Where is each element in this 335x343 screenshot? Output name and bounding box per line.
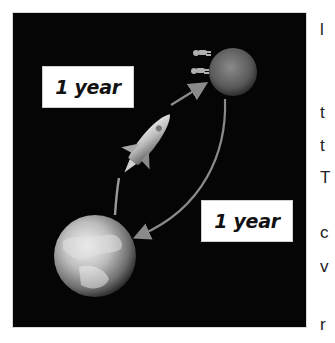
outbound-arrow <box>171 87 200 105</box>
outbound-duration-text: 1 year <box>55 76 121 98</box>
rocket-icon <box>110 103 184 183</box>
clipped-text-line: T <box>320 168 330 188</box>
return-duration-text: 1 year <box>214 210 280 232</box>
rocket-trail <box>115 178 119 215</box>
clipped-text-line: t <box>320 103 325 123</box>
clipped-body-text: l t t T c v r <box>320 0 335 343</box>
mars-icon <box>209 48 257 96</box>
clipped-text-line: v <box>320 257 329 277</box>
clipped-text-line: c <box>320 223 329 243</box>
space-illustration: 1 year 1 year <box>13 13 306 327</box>
clipped-text-line: l <box>320 20 324 40</box>
clipped-text-line: t <box>320 136 325 156</box>
astronauts-icon <box>191 50 211 74</box>
return-duration-label: 1 year <box>201 200 293 242</box>
illustration-graphics <box>13 13 306 327</box>
earth-icon <box>54 215 136 297</box>
clipped-text-line: r <box>320 315 326 335</box>
outbound-duration-label: 1 year <box>42 66 134 108</box>
